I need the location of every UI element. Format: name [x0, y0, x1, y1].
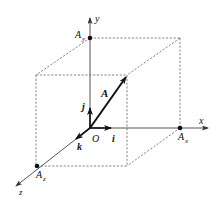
x-axis-label: x [198, 115, 204, 126]
unit-vector-j-label: j [80, 101, 85, 112]
point-ay [88, 36, 93, 41]
svg-text:A: A [177, 131, 185, 142]
label-ax: A x [177, 131, 189, 145]
origin-label: O [92, 133, 99, 144]
z-axis-label: z [18, 187, 23, 197]
svg-text:A: A [35, 169, 43, 180]
svg-text:x: x [184, 137, 189, 145]
label-ay: A y [74, 29, 86, 43]
point-ax [178, 126, 183, 131]
svg-text:A: A [74, 29, 82, 40]
vector-a-label: A [100, 87, 108, 99]
box-edge-depth-bottom-right [127, 128, 180, 166]
point-az [35, 164, 40, 169]
box-edge-depth-top-right [127, 38, 180, 75]
box-edge-depth-top-left [36, 38, 90, 75]
unit-vector-k-label: k [77, 141, 82, 152]
label-az: A z [35, 169, 46, 183]
svg-text:y: y [81, 35, 86, 43]
unit-vector-k [76, 128, 90, 139]
unit-vector-i-label: i [112, 133, 115, 144]
vector-diagram: y x z O j i k A A y A x A z [0, 0, 218, 197]
svg-text:z: z [42, 175, 46, 183]
vector-a [90, 77, 126, 128]
y-axis-label: y [94, 13, 100, 24]
axes [16, 18, 208, 186]
